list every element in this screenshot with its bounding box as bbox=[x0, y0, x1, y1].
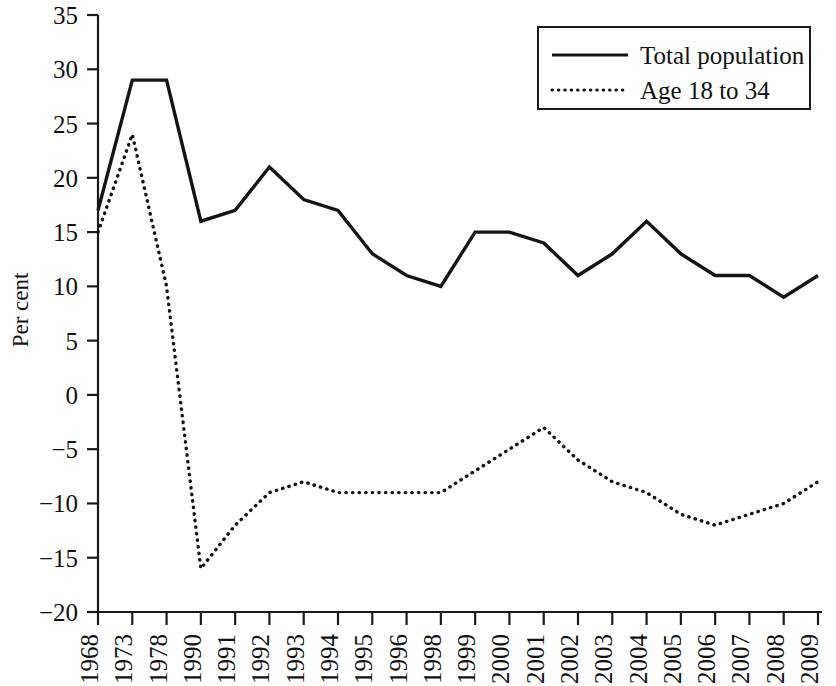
y-tick-label: 10 bbox=[53, 273, 78, 300]
y-tick-label: −5 bbox=[51, 436, 78, 463]
x-tick-label: 2000 bbox=[487, 634, 514, 684]
x-tick-label: 1992 bbox=[247, 634, 274, 684]
y-tick-label: −15 bbox=[39, 545, 78, 572]
x-tick-label: 2003 bbox=[590, 634, 617, 684]
y-axis-group: 35302520151050−5−10−15−20 Per cent bbox=[8, 2, 98, 626]
y-tick-label: −20 bbox=[39, 599, 78, 626]
x-tick-label: 2008 bbox=[762, 634, 789, 684]
y-tick-label: 20 bbox=[53, 165, 78, 192]
y-tick-labels: 35302520151050−5−10−15−20 bbox=[39, 2, 78, 626]
x-tick-label: 2004 bbox=[625, 634, 652, 685]
y-tick-label: 25 bbox=[53, 111, 78, 138]
x-tick-labels: 1968197319781990199119921993199419951996… bbox=[76, 634, 823, 685]
plot-series-group bbox=[98, 80, 818, 568]
x-tick-label: 2002 bbox=[556, 634, 583, 684]
x-tick-label: 2007 bbox=[727, 634, 754, 684]
y-tick-label: 0 bbox=[66, 382, 79, 409]
x-tick-label: 1990 bbox=[179, 634, 206, 684]
x-tick-label: 2005 bbox=[659, 634, 686, 684]
x-tick-label: 2006 bbox=[693, 634, 720, 684]
y-tick-label: 30 bbox=[53, 56, 78, 83]
legend-label-age-18-to-34: Age 18 to 34 bbox=[640, 77, 770, 104]
x-tick-marks bbox=[98, 612, 818, 625]
x-tick-label: 1973 bbox=[110, 634, 137, 684]
y-tick-label: −10 bbox=[39, 490, 78, 517]
x-tick-label: 1999 bbox=[453, 634, 480, 684]
x-tick-label: 1993 bbox=[282, 634, 309, 684]
x-tick-label: 1998 bbox=[419, 634, 446, 684]
x-axis-group: 1968197319781990199119921993199419951996… bbox=[76, 612, 823, 684]
y-tick-label: 35 bbox=[53, 2, 78, 29]
x-tick-label: 2001 bbox=[522, 634, 549, 684]
series-line-total-population bbox=[98, 80, 818, 297]
x-tick-label: 1994 bbox=[316, 634, 343, 685]
chart-canvas: 35302520151050−5−10−15−20 Per cent 19681… bbox=[0, 0, 836, 686]
x-tick-label: 2009 bbox=[796, 634, 823, 684]
y-tick-label: 15 bbox=[53, 219, 78, 246]
line-chart: 35302520151050−5−10−15−20 Per cent 19681… bbox=[0, 0, 836, 686]
y-tick-label: 5 bbox=[66, 328, 79, 355]
legend: Total population Age 18 to 34 bbox=[538, 27, 810, 109]
x-tick-label: 1968 bbox=[76, 634, 103, 684]
series-line-age-18-to-34 bbox=[98, 134, 818, 568]
legend-label-total-population: Total population bbox=[640, 42, 805, 69]
y-axis-title: Per cent bbox=[8, 272, 33, 347]
x-tick-label: 1991 bbox=[213, 634, 240, 684]
y-tick-marks bbox=[87, 15, 98, 612]
x-tick-label: 1978 bbox=[145, 634, 172, 684]
x-tick-label: 1995 bbox=[350, 634, 377, 684]
x-tick-label: 1996 bbox=[385, 634, 412, 684]
